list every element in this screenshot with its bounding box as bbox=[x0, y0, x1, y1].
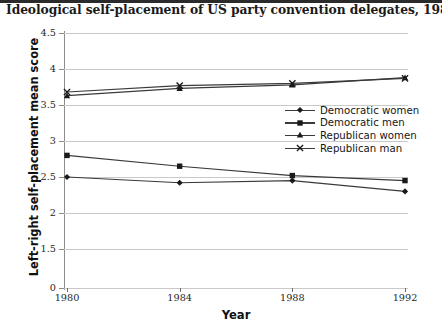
y-axis-title: Left-right self-placement mean score bbox=[27, 37, 41, 277]
chart-figure: Ideological self-placement of US party c… bbox=[0, 0, 442, 331]
data-point-marker bbox=[177, 164, 182, 169]
legend-label: Democratic men bbox=[315, 117, 405, 128]
chart-legend: Democratic womenDemocratic menRepublican… bbox=[285, 104, 440, 154]
series-line bbox=[67, 177, 405, 191]
data-point-marker bbox=[402, 178, 407, 183]
legend-marker-x-icon bbox=[285, 142, 315, 154]
series-democratic-men bbox=[64, 153, 407, 184]
data-point-marker bbox=[289, 178, 295, 184]
legend-label: Democratic women bbox=[315, 105, 419, 116]
series-line bbox=[67, 155, 405, 180]
data-point-marker bbox=[177, 180, 183, 186]
data-point-marker bbox=[290, 173, 295, 178]
x-axis-title: Year bbox=[64, 308, 408, 322]
data-point-marker bbox=[402, 188, 408, 194]
legend-key-marker bbox=[295, 104, 305, 116]
data-series-layer bbox=[0, 0, 442, 331]
series-republican-women bbox=[64, 74, 408, 98]
legend-item: Republican women bbox=[285, 129, 440, 142]
legend-label: Republican women bbox=[315, 130, 417, 141]
series-democratic-women bbox=[64, 174, 408, 195]
legend-marker-triangle-icon bbox=[285, 129, 315, 141]
legend-marker-diamond-icon bbox=[285, 104, 315, 116]
legend-key-marker bbox=[295, 142, 305, 154]
legend-label: Republican man bbox=[315, 143, 402, 154]
data-point-marker bbox=[64, 153, 69, 158]
legend-marker-square-icon bbox=[285, 117, 315, 129]
legend-item: Democratic men bbox=[285, 117, 440, 130]
legend-key-marker bbox=[295, 117, 305, 129]
data-point-marker bbox=[64, 174, 70, 180]
legend-key-marker bbox=[295, 129, 305, 141]
legend-item: Democratic women bbox=[285, 104, 440, 117]
series-line bbox=[67, 78, 405, 92]
legend-item: Republican man bbox=[285, 142, 440, 155]
